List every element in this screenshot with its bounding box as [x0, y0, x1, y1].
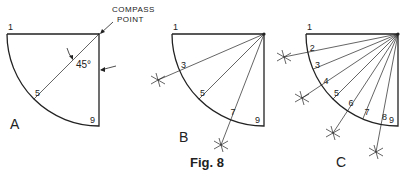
panel-b-quadrant: 13579B	[151, 22, 266, 152]
radial-line-5	[199, 34, 264, 99]
division-number-9: 9	[389, 115, 394, 125]
panel-a-quadrant: 159A	[7, 22, 100, 132]
division-number-7: 7	[365, 107, 370, 117]
figure-caption: Fig. 8	[190, 155, 224, 170]
arc-intersection-cross-icon	[326, 126, 340, 140]
angle-arrowhead-icon	[69, 55, 73, 60]
angle-annotation: 45°	[67, 48, 116, 72]
division-number-9: 9	[255, 115, 260, 125]
division-number-4: 4	[324, 76, 329, 86]
division-number-5: 5	[200, 88, 205, 98]
radial-line-8	[376, 34, 398, 152]
division-number-5: 5	[334, 88, 339, 98]
division-number-1: 1	[8, 22, 13, 32]
edge-arrowhead-icon	[100, 67, 105, 72]
compass-label-line2: POINT	[117, 15, 144, 24]
arc-intersection-cross-icon	[214, 138, 228, 152]
division-number-7: 7	[231, 107, 236, 117]
division-number-8: 8	[382, 112, 387, 122]
panel-label-b: B	[179, 129, 188, 145]
panel-label-a: A	[10, 116, 20, 132]
radial-line-7	[221, 34, 264, 145]
division-number-5: 5	[35, 88, 40, 98]
radial-line-3	[158, 34, 264, 80]
figure-8-diagram: 159A 13579B 123456789C COMPASS POINT 45°…	[0, 0, 406, 183]
division-number-2: 2	[310, 43, 315, 53]
division-number-6: 6	[348, 98, 353, 108]
division-number-1: 1	[307, 22, 312, 32]
arc-intersection-cross-icon	[295, 91, 309, 105]
arc-intersection-cross-icon	[369, 145, 383, 159]
division-number-9: 9	[90, 115, 95, 125]
panel-c-quadrant: 123456789C	[277, 22, 400, 170]
arc-intersection-cross-icon	[277, 50, 291, 64]
division-number-3: 3	[315, 60, 320, 70]
arc-intersection-cross-icon	[151, 73, 165, 87]
compass-point-annotation: COMPASS POINT	[100, 5, 155, 34]
division-number-3: 3	[181, 60, 186, 70]
division-number-1: 1	[173, 22, 178, 32]
compass-label-line1: COMPASS	[112, 5, 155, 14]
radial-line-5	[333, 34, 398, 99]
panel-label-c: C	[336, 154, 346, 170]
angle-label: 45°	[76, 59, 91, 70]
